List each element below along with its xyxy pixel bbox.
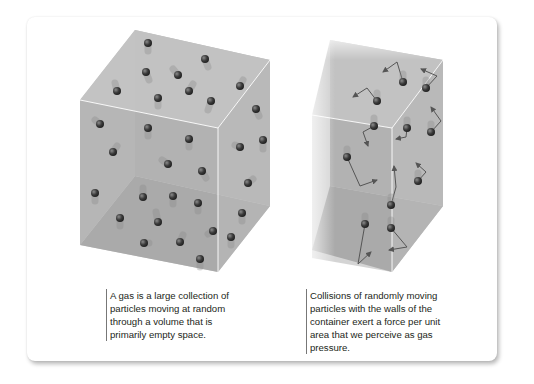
gas-particle — [259, 136, 267, 144]
gas-particle — [154, 94, 162, 102]
caption-gas-volume: A gas is a large collection of particles… — [106, 289, 250, 341]
caption-line: Collisions of randomly moving — [310, 289, 460, 302]
gas-particle — [176, 238, 184, 246]
gas-particle — [144, 124, 152, 132]
gas-particle — [140, 239, 148, 247]
caption-line: area that we perceive as gas — [310, 328, 460, 341]
gas-particle — [164, 160, 172, 168]
gas-particle — [414, 177, 422, 185]
gas-particle — [207, 97, 215, 105]
gas-particle — [116, 214, 124, 222]
caption-gas-pressure: Collisions of randomly moving particles … — [306, 289, 460, 354]
caption-line: pressure. — [310, 341, 460, 354]
gas-particle — [96, 120, 104, 128]
gas-particle — [91, 189, 99, 197]
caption-line: primarily empty space. — [110, 328, 250, 341]
caption-line: container exert a force per unit — [310, 315, 460, 328]
gas-particle — [236, 82, 244, 90]
pressure-container-box — [300, 30, 450, 280]
caption-line: particles moving at random — [110, 302, 250, 315]
gas-particle — [109, 148, 117, 156]
gas-particle — [142, 68, 150, 76]
gas-particle — [227, 233, 235, 241]
gas-particle — [238, 209, 246, 217]
gas-particle — [387, 201, 395, 209]
caption-line: A gas is a large collection of — [110, 289, 250, 302]
gas-particle — [236, 143, 244, 151]
gas-particle — [154, 218, 162, 226]
gas-particle — [169, 192, 177, 200]
gas-particle — [196, 255, 204, 263]
gas-particle — [174, 71, 182, 79]
gas-particle — [361, 220, 369, 228]
gas-particle — [427, 128, 435, 136]
caption-line: particles with the walls of the — [310, 302, 460, 315]
gas-particle — [252, 105, 260, 113]
gas-particle — [343, 153, 351, 161]
gas-particle — [201, 55, 209, 63]
gas-particle — [194, 199, 202, 207]
gas-particle — [370, 122, 378, 130]
gas-particle — [373, 97, 381, 105]
gas-particle — [144, 39, 152, 47]
gas-particle — [113, 87, 121, 95]
gas-particle — [387, 224, 395, 232]
gas-particle — [139, 193, 147, 201]
gas-particle — [198, 167, 206, 175]
gas-particle — [422, 84, 430, 92]
gas-particle — [244, 179, 252, 187]
fade-top — [300, 30, 450, 60]
gas-particle — [403, 124, 411, 132]
gas-particle — [185, 135, 193, 143]
gas-particle — [185, 87, 193, 95]
gas-particle — [399, 78, 407, 86]
gas-particle — [209, 227, 217, 235]
caption-line: through a volume that is — [110, 315, 250, 328]
fade-left — [300, 30, 335, 280]
